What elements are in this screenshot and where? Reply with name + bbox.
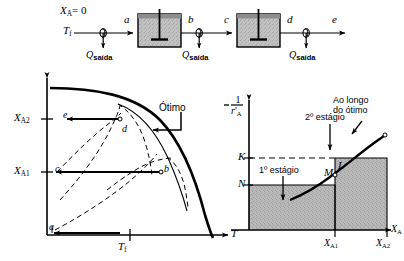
reactor-vessel-1 xyxy=(138,9,181,47)
stream-label-e: e xyxy=(332,14,337,25)
ao-longo-line-2: do ótimo xyxy=(333,105,369,115)
left-xtick-label-tf: Tf xyxy=(118,241,127,254)
right-xtick-label-xa1: XA1 xyxy=(324,238,338,249)
stream-label-a: a xyxy=(124,14,130,25)
right-yaxis-numerator: 1 xyxy=(230,95,246,105)
heat-exchanger-3-icon xyxy=(303,29,309,48)
right-ytick-label-N: N xyxy=(238,178,245,189)
feed-temperature-label: Tf xyxy=(63,25,72,38)
left-point-label-a: a xyxy=(49,222,54,232)
left-point-label-d: d xyxy=(122,124,127,134)
reactor-vessel-2 xyxy=(237,9,280,47)
operating-path-c-d xyxy=(57,113,121,172)
heat-removal-label-1: Qsaída xyxy=(86,50,112,61)
point-M xyxy=(333,173,337,177)
left-ytick-xa1-subscript: A1 xyxy=(21,170,30,178)
stage-1-label: 1º estágio xyxy=(259,166,299,175)
left-point-label-e: e xyxy=(63,110,67,120)
left-point-label-c: c xyxy=(55,164,59,174)
left-ytick-label-xa1: XA1 xyxy=(14,165,30,178)
stream-label-c: c xyxy=(224,14,229,25)
right-ytick-label-K: K xyxy=(238,151,245,162)
heat-removal-subscript-1: saída xyxy=(93,53,112,62)
left-xtick-tf-subscript: f xyxy=(124,246,126,254)
point-curve-xa2 xyxy=(383,133,387,137)
right-xtick-label-xa2: XA2 xyxy=(376,238,390,249)
right-chart-xaxis-label: XA xyxy=(391,224,402,235)
left-ytick-xa2-subscript: A2 xyxy=(21,117,30,125)
point-b xyxy=(159,170,163,174)
heat-removal-label-2: Qsaída xyxy=(182,50,208,61)
left-ytick-label-xa2: XA2 xyxy=(14,112,30,125)
right-point-label-M: M xyxy=(324,167,333,178)
heat-exchanger-2-icon xyxy=(196,29,202,48)
figure-canvas: XA= 0 Tf a b c d e Qsaída Qsaída Qsaída … xyxy=(0,0,404,261)
left-chart-xaxis-label: T xyxy=(231,228,237,239)
right-xtick-xa1-subscript: A1 xyxy=(330,242,338,249)
heat-removal-subscript-2: saída xyxy=(189,53,208,62)
right-xtick-xa2-subscript: A2 xyxy=(382,242,390,249)
optimum-locus-curve xyxy=(118,104,187,211)
ao-longo-do-otimo-label: Ao longo do ótimo xyxy=(333,95,369,116)
ao-longo-line-1: Ao longo xyxy=(333,95,369,105)
feed-conversion-equation: = 0 xyxy=(72,4,86,16)
point-d xyxy=(118,117,122,121)
feed-temperature-subscript: f xyxy=(69,30,71,38)
stream-label-d: d xyxy=(287,14,293,25)
ao-longo-callout-arrow xyxy=(352,121,362,134)
rate-contour-1 xyxy=(60,106,120,200)
otimo-label: Ótimo xyxy=(159,103,186,113)
conversion-temperature-chart xyxy=(41,78,228,241)
flowsheet-diagram xyxy=(74,9,345,48)
right-yaxis-denominator: r'A xyxy=(231,106,241,117)
left-point-label-b: b xyxy=(164,164,169,174)
figure-svg xyxy=(0,0,404,261)
operating-path-a-b xyxy=(55,154,157,230)
heat-removal-subscript-3: saída xyxy=(296,53,315,62)
stage-1-area xyxy=(249,185,335,230)
heat-exchanger-1-icon xyxy=(100,29,106,48)
feed-conversion-label: XA= 0 xyxy=(60,5,86,18)
stream-label-b: b xyxy=(188,14,194,25)
right-point-label-L: L xyxy=(338,160,344,171)
rate-subscript-a: A xyxy=(237,110,242,117)
heat-removal-label-3: Qsaída xyxy=(289,50,315,61)
